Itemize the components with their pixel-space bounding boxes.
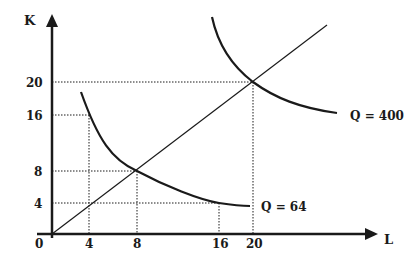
y-tick-16: 16 <box>26 109 43 123</box>
x-tick-20: 20 <box>246 237 263 251</box>
x-tick-4: 4 <box>85 237 93 251</box>
isoquant-q64-curve <box>81 92 250 206</box>
y-tick-8: 8 <box>34 165 42 179</box>
isoquant-q64-label: Q = 64 <box>261 200 307 214</box>
l-axis-label: L <box>384 232 393 247</box>
x-tick-16: 16 <box>212 237 229 251</box>
origin-label: 0 <box>35 237 43 251</box>
y-tick-20: 20 <box>26 76 43 90</box>
y-tick-4: 4 <box>34 197 42 211</box>
x-tick-8: 8 <box>133 237 141 251</box>
isoquant-q400-label: Q = 400 <box>350 109 404 123</box>
k-axis-label: K <box>24 13 36 28</box>
isoquant-diagram: K L 0 20 16 8 4 4 8 16 20 Q = 64 Q = 400 <box>0 0 417 260</box>
k-axis-arrow-icon <box>46 14 58 27</box>
l-axis-arrow-icon <box>365 228 378 240</box>
